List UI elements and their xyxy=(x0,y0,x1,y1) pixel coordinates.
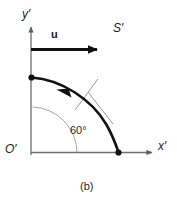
reference-frame-label: S′ xyxy=(113,22,123,34)
figure-caption: (b) xyxy=(80,181,93,192)
angle-label: 60° xyxy=(70,125,87,136)
y-axis-label: y′ xyxy=(22,8,30,20)
velocity-vector-label: u xyxy=(51,29,58,40)
figure-canvas xyxy=(0,0,177,202)
origin-label: O′ xyxy=(5,143,17,155)
trajectory-start-dot xyxy=(28,74,34,80)
tangent-line-extension xyxy=(88,92,113,124)
x-axis-label: x′ xyxy=(158,140,166,152)
physics-figure: y′ x′ O′ S′ u 60° (b) xyxy=(0,0,177,202)
trajectory-end-dot xyxy=(115,149,121,155)
